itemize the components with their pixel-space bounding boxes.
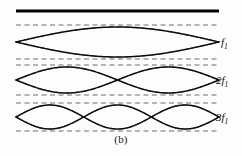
harmonic-label-f1-subscript: 1 xyxy=(224,42,228,51)
harmonic-1-solid-wave-upper xyxy=(16,42,219,57)
harmonic-1 xyxy=(16,25,219,59)
harmonic-3-dashed-wave-lower xyxy=(16,105,219,129)
panel-caption: (b) xyxy=(0,133,242,145)
harmonic-label-2f1: 2f1 xyxy=(216,75,228,89)
harmonic-label-3f1-subscript: 1 xyxy=(225,117,229,126)
standing-wave-figure: f1 2f1 3f1 (b) xyxy=(0,0,242,156)
harmonic-2-solid-wave-lower xyxy=(16,67,219,93)
harmonic-3-solid-wave-upper xyxy=(16,105,219,129)
harmonic-3-solid-wave-lower xyxy=(16,105,219,129)
harmonic-3 xyxy=(16,103,219,131)
harmonic-label-f1: f1 xyxy=(221,37,228,51)
harmonic-2 xyxy=(16,65,219,95)
harmonic-3-dashed-wave-upper xyxy=(16,105,219,129)
harmonic-label-3f1: 3f1 xyxy=(216,112,228,126)
harmonic-label-2f1-subscript: 1 xyxy=(225,80,229,89)
harmonic-1-solid-wave-lower xyxy=(16,27,219,42)
